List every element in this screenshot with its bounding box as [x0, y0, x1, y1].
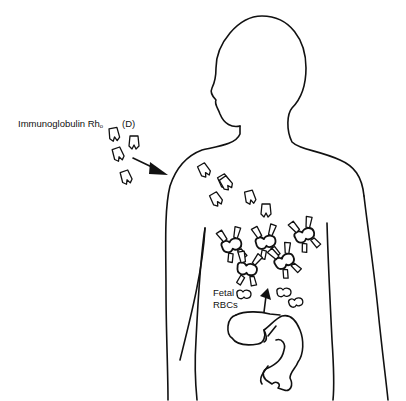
body-outline [166, 16, 388, 400]
immunoglobulin-d-label: (D) [122, 118, 135, 129]
injection-arrow [133, 158, 168, 175]
immunoglobulin-label: Immunoglobulin Rho [18, 118, 103, 132]
free-antibodies-outside [108, 127, 139, 185]
rh-immunoglobulin-diagram: Immunoglobulin Rho (D) Fetal RBCs [0, 0, 406, 401]
antibody-coated-rbcs [216, 215, 323, 288]
free-antibodies-inside [197, 162, 271, 217]
fetal-rbc-arrow [260, 288, 271, 312]
fetus-icon [228, 312, 303, 391]
diagram-canvas [0, 0, 406, 401]
immunoglobulin-subscript: o [100, 123, 103, 129]
immunoglobulin-text: Immunoglobulin Rh [18, 118, 100, 129]
fetal-rbcs-label-line1: Fetal [213, 287, 234, 298]
fetal-rbcs-label-line2: RBCs [213, 299, 238, 310]
